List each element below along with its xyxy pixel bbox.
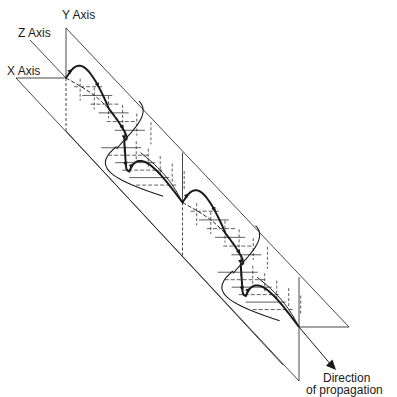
horizontal-component-curve [105,147,163,197]
polarized-wave-diagram: Y Axis Z Axis X Axis Direction of propag… [0,0,397,397]
horizontal-component-curve [222,271,280,321]
diagram-canvas [0,0,397,397]
helix-arrowheads [67,67,251,293]
inner-lower-line [66,131,283,365]
propagation-arrow [299,327,339,373]
direction-label-line2: of propagation [306,384,383,396]
y-axis-label: Y Axis [62,9,95,21]
hatch-lines [74,79,301,316]
frame-lines [16,28,349,381]
x-axis-label: X Axis [7,65,40,77]
propagation-arrow-shaft [299,327,332,366]
z-axis-label: Z Axis [18,27,51,39]
hidden-component-curve [66,78,111,112]
hidden-component-curve [183,203,228,237]
